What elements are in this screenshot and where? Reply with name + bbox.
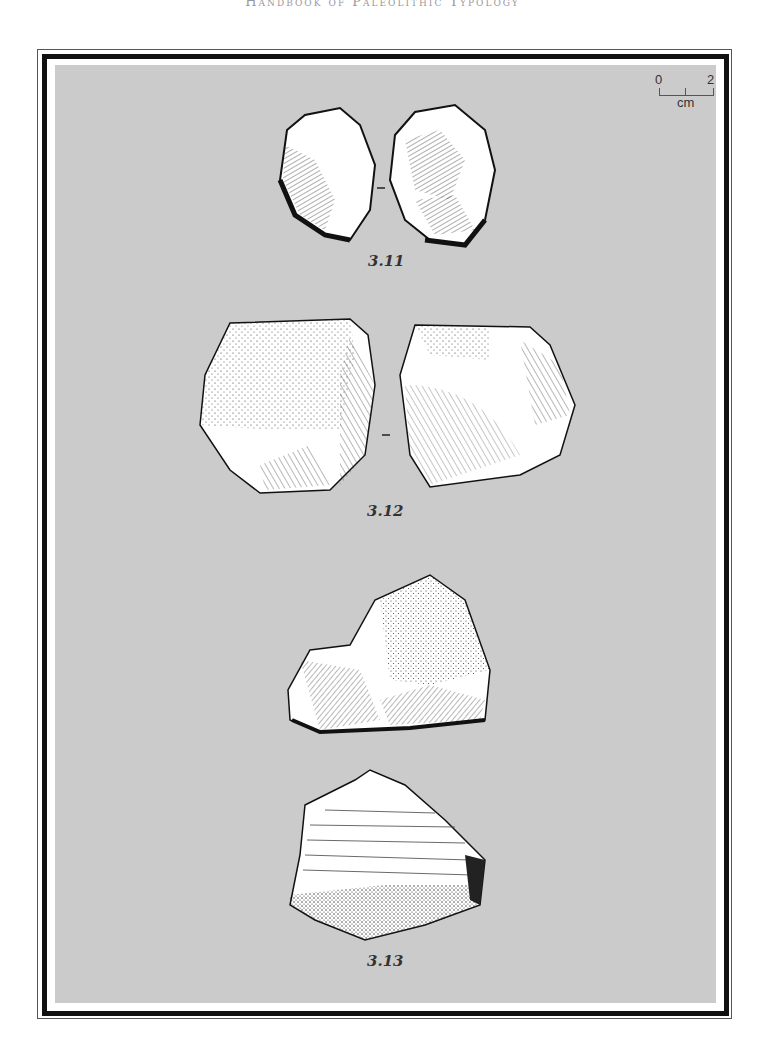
scale-unit: cm (677, 95, 694, 110)
artifact-3-11-drawing (265, 100, 510, 250)
figure-label-3-12: 3.12 (367, 502, 404, 520)
artifact-3-13-bottom-drawing (285, 765, 495, 945)
scale-start: 0 (655, 72, 662, 87)
artifact-3-12-drawing (190, 315, 590, 495)
figure-label-3-11: 3.11 (368, 252, 405, 270)
scale-end: 2 (707, 72, 714, 87)
figure-label-3-13: 3.13 (367, 952, 404, 970)
running-head: Handbook of Paleolithic Typology (0, 0, 765, 9)
artifact-3-13-top-drawing (280, 570, 495, 745)
scale-bar: 0 2 cm (655, 70, 715, 110)
scale-tick (685, 88, 686, 95)
